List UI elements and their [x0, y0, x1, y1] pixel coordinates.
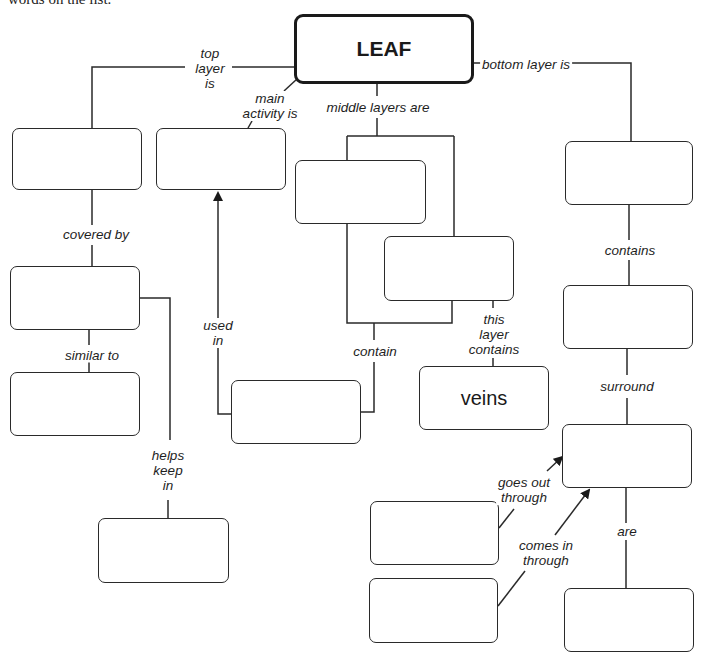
node-bottom-contents[interactable]	[563, 285, 693, 349]
link-label-contain: contain	[351, 344, 399, 359]
node-are[interactable]	[564, 588, 694, 652]
node-middle-layer-1[interactable]	[295, 160, 426, 224]
link-label-helps-keep-in: helps keep in	[150, 448, 186, 493]
link-label-this-layer-contains: this layer contains	[467, 312, 521, 357]
link-label-contains: contains	[603, 243, 657, 258]
root-node-leaf: LEAF	[294, 14, 474, 84]
link-label-used-in: used in	[201, 318, 234, 348]
node-main-activity[interactable]	[156, 128, 286, 190]
link-label-top-layer-is: top layer is	[193, 46, 226, 91]
node-covering[interactable]	[10, 266, 140, 330]
link-label-goes-out-through: goes out through	[496, 475, 552, 505]
link-label-middle-layers-are: middle layers are	[325, 100, 432, 115]
link-label-are: are	[615, 524, 639, 539]
node-middle-layer-2[interactable]	[384, 236, 514, 301]
link-label-surround: surround	[598, 379, 655, 394]
link-label-similar-to: similar to	[63, 348, 121, 363]
node-top-layer[interactable]	[12, 128, 142, 190]
node-surrounded[interactable]	[562, 424, 692, 488]
link-label-covered-by: covered by	[61, 227, 131, 242]
link-label-main-activity-is: main activity is	[241, 91, 300, 121]
node-text: veins	[461, 387, 508, 410]
node-used-in-source[interactable]	[231, 380, 361, 444]
node-similar-to[interactable]	[10, 372, 140, 436]
root-label: LEAF	[357, 37, 412, 61]
node-veins: veins	[419, 366, 549, 430]
node-bottom-layer[interactable]	[565, 141, 693, 205]
link-label-comes-in-through: comes in through	[517, 538, 575, 568]
concept-map: words on the list.	[0, 0, 704, 663]
link-label-bottom-layer-is: bottom layer is	[480, 57, 572, 72]
node-goes-out[interactable]	[370, 501, 499, 565]
node-kept-in[interactable]	[98, 518, 229, 583]
node-comes-in[interactable]	[369, 578, 498, 643]
